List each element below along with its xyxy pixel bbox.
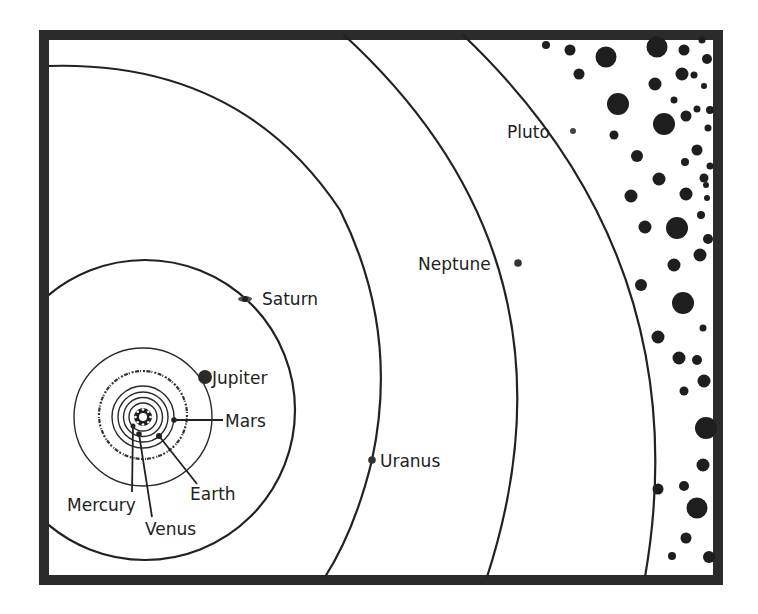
venus-leader — [139, 434, 152, 517]
earth-label: Earth — [190, 484, 236, 504]
jupiter-planet — [198, 370, 212, 384]
neptune-orbit — [343, 34, 517, 577]
mars-label: Mars — [225, 411, 266, 431]
uranus-planet — [368, 456, 376, 464]
mercury-leader — [132, 426, 133, 492]
mercury-label: Mercury — [67, 495, 136, 515]
sun-icon — [134, 408, 152, 426]
neptune-label: Neptune — [418, 254, 491, 274]
jupiter-label: Jupiter — [211, 368, 267, 388]
saturn-label: Saturn — [262, 289, 318, 309]
pluto-planet — [570, 128, 576, 134]
pluto-label: Pluto — [507, 122, 550, 142]
saturn-planet — [238, 296, 252, 302]
outer-dot-field — [542, 37, 717, 564]
diagram-frame — [44, 35, 718, 580]
pluto-orbit — [462, 34, 655, 577]
neptune-planet — [514, 259, 522, 267]
solar-system-diagram: Mercury Venus Earth Mars Jupiter Saturn … — [0, 0, 758, 614]
venus-label: Venus — [145, 519, 196, 539]
uranus-label: Uranus — [380, 451, 440, 471]
